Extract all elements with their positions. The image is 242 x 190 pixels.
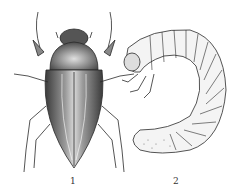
beetle-figure bbox=[14, 12, 134, 172]
figure-label-2: 2 bbox=[173, 176, 179, 186]
figure-label-1: 1 bbox=[70, 176, 76, 186]
illustration bbox=[0, 0, 242, 190]
larva-figure bbox=[122, 30, 226, 153]
